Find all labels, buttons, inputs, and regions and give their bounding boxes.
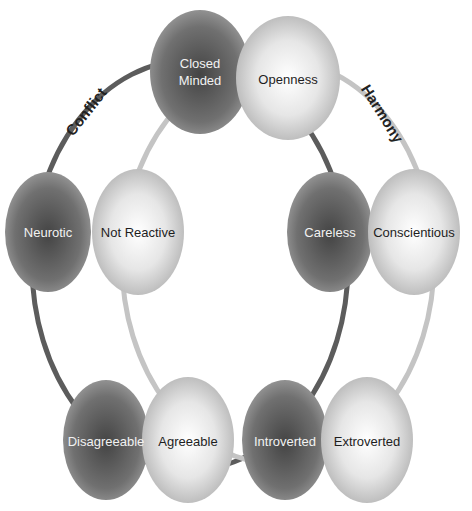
label-agreeable: Agreeable (158, 433, 217, 450)
label-openness: Openness (258, 71, 317, 88)
label-extroverted: Extroverted (334, 433, 400, 450)
label-introverted: Introverted (254, 433, 316, 450)
label-closed-line: Closed (179, 55, 222, 72)
label-minded-line: Minded (179, 72, 222, 89)
label-careless: Careless (304, 224, 355, 241)
label-disagreeable: Disagreeable (68, 433, 145, 450)
label-conscientious: Conscientious (373, 224, 455, 241)
label-neurotic: Neurotic (24, 224, 72, 241)
label-closed-minded: Closed Minded (179, 55, 222, 89)
label-not-reactive: Not Reactive (101, 224, 175, 241)
